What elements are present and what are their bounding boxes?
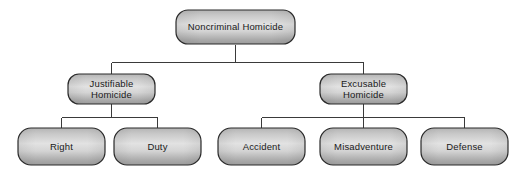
node-label-accident: Accident: [243, 141, 281, 152]
node-defense[interactable]: Defense: [421, 128, 508, 165]
diagram-canvas: Noncriminal Homicide Justifiable Homicid…: [0, 0, 532, 180]
node-label-justifiable-line1: Justifiable: [90, 78, 134, 89]
node-accident[interactable]: Accident: [218, 128, 305, 165]
node-misadventure[interactable]: Misadventure: [320, 128, 407, 165]
node-label-defense: Defense: [446, 141, 482, 152]
node-label-justifiable-line2: Homicide: [91, 89, 132, 100]
node-label-misadventure: Misadventure: [334, 141, 393, 152]
node-label-root: Noncriminal Homicide: [188, 21, 283, 32]
node-label-excusable-line1: Excusable: [341, 78, 386, 89]
hierarchy-tree: Noncriminal Homicide Justifiable Homicid…: [0, 0, 532, 180]
node-label-excusable-line2: Homicide: [343, 89, 384, 100]
node-right[interactable]: Right: [18, 128, 105, 165]
node-duty[interactable]: Duty: [114, 128, 201, 165]
node-justifiable-homicide[interactable]: Justifiable Homicide: [68, 74, 155, 104]
node-label-right: Right: [50, 141, 73, 152]
node-label-duty: Duty: [147, 141, 167, 152]
node-excusable-homicide[interactable]: Excusable Homicide: [320, 74, 407, 104]
node-noncriminal-homicide[interactable]: Noncriminal Homicide: [176, 10, 295, 44]
